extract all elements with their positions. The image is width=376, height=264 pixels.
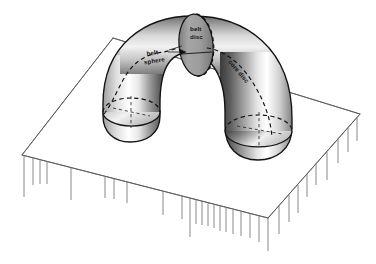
label-belt-disc-line2: disc: [190, 33, 203, 40]
figure-container: belt sphere belt disc core disc: [0, 0, 376, 264]
label-belt-disc: belt disc: [190, 25, 203, 40]
handle-on-plate-diagram: belt sphere belt disc core disc: [0, 0, 376, 264]
label-belt-disc-line1: belt: [190, 25, 201, 32]
